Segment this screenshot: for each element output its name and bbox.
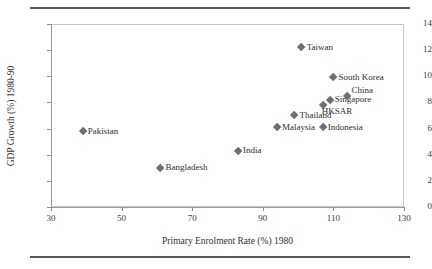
- y-axis-line: [51, 24, 52, 208]
- x-axis-line: [51, 207, 405, 208]
- x-tick-label: 70: [172, 213, 212, 223]
- y-tick-mark: [47, 181, 51, 182]
- figure-scatter-plot: GDP Growth (%) 1980-90 02468101214 30507…: [0, 0, 432, 269]
- top-horizontal-rule: [30, 7, 410, 9]
- y-tick-label: 14: [398, 19, 432, 28]
- x-tick-mark: [404, 207, 405, 211]
- data-point-label: Pakistan: [88, 127, 119, 136]
- data-point-label: Singapore: [335, 95, 372, 104]
- y-tick-label: 12: [398, 45, 432, 54]
- data-point-label: India: [243, 146, 262, 155]
- y-tick-mark: [47, 155, 51, 156]
- x-tick-label: 50: [102, 213, 142, 223]
- y-tick-label: 8: [398, 97, 432, 106]
- x-tick-mark: [263, 207, 264, 211]
- data-point-label: Indonesia: [328, 123, 363, 132]
- data-point-label: HKSAR: [322, 107, 353, 116]
- x-tick-mark: [51, 207, 52, 211]
- bottom-horizontal-rule: [30, 256, 410, 258]
- data-point-label: Bangladesh: [165, 163, 207, 172]
- y-tick-label: 6: [398, 124, 432, 133]
- x-tick-label: 90: [243, 213, 283, 223]
- data-point-label: South Korea: [338, 73, 383, 82]
- y-tick-label: 4: [398, 150, 432, 159]
- y-tick-mark: [47, 24, 51, 25]
- y-tick-mark: [47, 50, 51, 51]
- x-axis-title: Primary Enrolment Rate (%) 1980: [51, 236, 404, 246]
- y-axis-title-text: GDP Growth (%) 1980-90: [6, 65, 16, 166]
- data-point-label: Taiwan: [307, 43, 333, 52]
- y-tick-mark: [47, 129, 51, 130]
- x-tick-label: 30: [31, 213, 71, 223]
- x-tick-mark: [192, 207, 193, 211]
- y-tick-label: 2: [398, 176, 432, 185]
- data-point-label: Malaysia: [282, 123, 315, 132]
- x-tick-mark: [122, 207, 123, 211]
- x-tick-label: 130: [384, 213, 424, 223]
- y-tick-mark: [47, 76, 51, 77]
- y-tick-mark: [47, 102, 51, 103]
- y-tick-label: 10: [398, 71, 432, 80]
- x-tick-mark: [333, 207, 334, 211]
- y-axis-title: GDP Growth (%) 1980-90: [4, 24, 18, 207]
- data-point-label: China: [352, 86, 374, 95]
- x-tick-label: 110: [313, 213, 353, 223]
